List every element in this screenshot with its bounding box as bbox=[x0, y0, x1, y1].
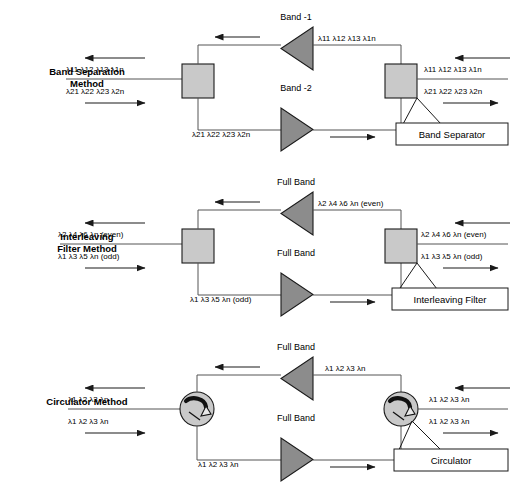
lambda-top-path-s1: λ11 λ12 λ13 λ1n bbox=[318, 34, 376, 43]
bidirectional-transmission-diagram: Band Separation Method λ11 λ12 λ13 λ1n λ… bbox=[0, 0, 518, 483]
band-label-top-s1: Band -1 bbox=[280, 12, 312, 22]
band-separator-right[interactable] bbox=[385, 64, 417, 98]
lambda-left-lower-s2: λ1 λ3 λ5 λn (odd) bbox=[58, 252, 120, 261]
band-label-bottom-s3: Full Band bbox=[277, 413, 315, 423]
callout-label-band-separator: Band Separator bbox=[419, 129, 486, 140]
band-label-bottom-s1: Band -2 bbox=[280, 83, 312, 93]
band-label-top-s2: Full Band bbox=[277, 177, 315, 187]
lambda-right-lower-s2: λ1 λ3 λ5 λn (odd) bbox=[421, 252, 483, 261]
interleaving-filter-left[interactable] bbox=[182, 229, 214, 263]
diagram-canvas: Band Separation Method λ11 λ12 λ13 λ1n λ… bbox=[0, 0, 518, 483]
lambda-right-upper-s1: λ11 λ12 λ13 λ1n bbox=[424, 65, 482, 74]
band-separator-left[interactable] bbox=[182, 64, 214, 98]
callout-label-circulator: Circulator bbox=[431, 455, 472, 466]
lambda-right-upper-s2: λ2 λ4 λ6 λn (even) bbox=[421, 230, 487, 239]
lambda-top-path-s3: λ1 λ2 λ3 λn bbox=[325, 364, 365, 373]
band-label-top-s3: Full Band bbox=[277, 342, 315, 352]
lambda-bottom-path-s2: λ1 λ3 λ5 λn (odd) bbox=[190, 295, 252, 304]
callout-label-interleaving-filter: Interleaving Filter bbox=[414, 294, 487, 305]
lambda-left-lower-s3: λ1 λ2 λ3 λn bbox=[68, 417, 108, 426]
lambda-right-lower-s3: λ1 λ2 λ3 λn bbox=[429, 417, 469, 426]
lambda-right-upper-s3: λ1 λ2 λ3 λn bbox=[429, 395, 469, 404]
lambda-bottom-path-s3: λ1 λ2 λ3 λn bbox=[198, 460, 238, 469]
band-label-bottom-s2: Full Band bbox=[277, 248, 315, 258]
interleaving-filter-right[interactable] bbox=[385, 229, 417, 263]
lambda-left-upper-s2: λ2 λ4 λ6 λn (even) bbox=[58, 230, 124, 239]
lambda-top-path-s2: λ2 λ4 λ6 λn (even) bbox=[318, 199, 384, 208]
lambda-bottom-path-s1: λ21 λ22 λ23 λ2n bbox=[192, 130, 250, 139]
lambda-right-lower-s1: λ21 λ22 λ23 λ2n bbox=[424, 87, 482, 96]
lambda-left-upper-s1: λ11 λ12 λ13 λ1n bbox=[66, 65, 124, 74]
lambda-left-upper-s3: λ1 λ2 λ3 λn bbox=[68, 395, 108, 404]
lambda-left-lower-s1: λ21 λ22 λ23 λ2n bbox=[66, 87, 124, 96]
